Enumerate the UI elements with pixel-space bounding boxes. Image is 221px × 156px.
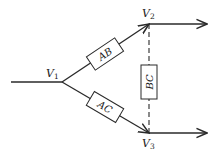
svg-text:3: 3	[150, 142, 155, 151]
node-v2-label: V 2	[142, 7, 155, 21]
svg-text:2: 2	[150, 12, 155, 21]
branch-bc-label: BC	[144, 74, 155, 91]
branch-ac-box: AC	[86, 91, 123, 122]
node-v3-label: V 3	[142, 137, 155, 151]
node-v1-label: V 1	[46, 67, 59, 81]
diagram-svg: AB AC BC V 1 V 2 V 3	[0, 0, 221, 156]
svg-text:1: 1	[54, 72, 59, 81]
branch-bc-box: BC	[141, 65, 157, 99]
branch-ab-box: AB	[86, 38, 123, 70]
diagram-canvas: AB AC BC V 1 V 2 V 3	[0, 0, 221, 156]
